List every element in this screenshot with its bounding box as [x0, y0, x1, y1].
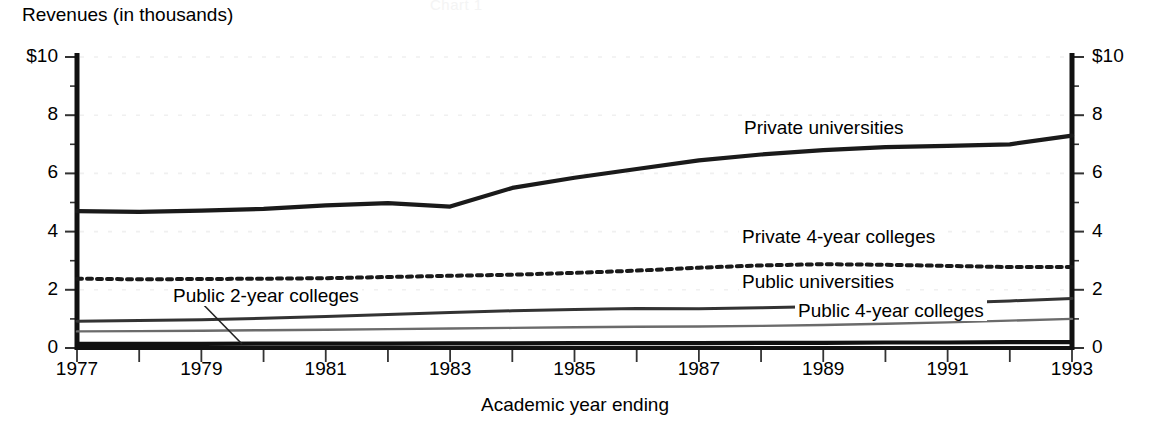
y-tick-label-left: 2 — [0, 278, 58, 300]
x-tick-label: 1977 — [32, 358, 122, 380]
gridlines — [80, 57, 1069, 290]
series-line — [77, 342, 1072, 344]
y-tick-label-right: 8 — [1092, 103, 1150, 125]
x-tick-label: 1983 — [405, 358, 495, 380]
y-tick-label-left: $10 — [0, 45, 58, 67]
y-tick-label-right: 2 — [1092, 278, 1150, 300]
x-tick-label: 1989 — [778, 358, 868, 380]
y-tick-label-right: 4 — [1092, 220, 1150, 242]
series-label: Public 2-year colleges — [170, 285, 362, 306]
x-tick-label: 1981 — [281, 358, 371, 380]
x-tick-label: 1979 — [156, 358, 246, 380]
series-line — [77, 264, 1072, 279]
y-tick-label-left: 0 — [0, 336, 58, 358]
series-label: Public 4-year colleges — [795, 300, 987, 321]
y-tick-label-left: 4 — [0, 220, 58, 242]
x-tick-label: 1993 — [1027, 358, 1117, 380]
series-label: Private universities — [741, 117, 906, 138]
y-tick-label-right: 0 — [1092, 336, 1150, 358]
x-tick-label: 1987 — [654, 358, 744, 380]
series-label: Private 4-year colleges — [739, 226, 938, 247]
y-tick-label-left: 6 — [0, 161, 58, 183]
x-axis-title: Academic year ending — [0, 394, 1150, 416]
x-tick-label: 1991 — [903, 358, 993, 380]
series-label: Public universities — [739, 271, 897, 292]
chart-figure: Chart 1 Revenues (in thousands) $1086420… — [0, 0, 1150, 439]
x-tick-label: 1985 — [530, 358, 620, 380]
y-tick-label-left: 8 — [0, 103, 58, 125]
y-tick-label-right: $10 — [1092, 45, 1150, 67]
y-tick-label-right: 6 — [1092, 161, 1150, 183]
